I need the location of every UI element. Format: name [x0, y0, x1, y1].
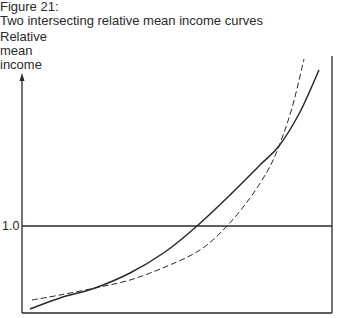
- curve-dashed: [32, 59, 304, 300]
- y-axis-arrow-icon: [20, 73, 25, 81]
- chart-plot: [0, 0, 339, 318]
- curve-solid: [30, 70, 319, 309]
